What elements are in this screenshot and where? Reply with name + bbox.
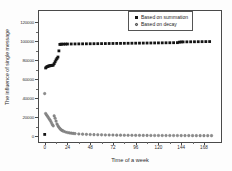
data-point <box>66 43 69 46</box>
x-tick-minor-mark <box>102 142 103 144</box>
y-tick-mark <box>35 60 38 61</box>
data-point <box>108 42 111 45</box>
y-axis-title-text: The influence of single message <box>4 29 10 105</box>
x-tick-mark <box>136 142 137 145</box>
y-axis-title: The influence of single message <box>2 0 12 133</box>
x-tick-label: 72 <box>103 145 123 151</box>
data-point <box>210 134 213 137</box>
data-point <box>153 134 156 137</box>
x-tick-mark <box>113 142 114 145</box>
y-tick-mark <box>35 136 38 137</box>
data-point <box>104 42 107 45</box>
y-tick-mark <box>35 79 38 80</box>
y-tick-mark <box>35 117 38 118</box>
data-point <box>77 42 80 45</box>
y-tick-mark <box>35 41 38 42</box>
data-point <box>119 42 122 45</box>
data-point <box>96 133 99 136</box>
data-point <box>89 42 92 45</box>
data-point <box>169 134 172 137</box>
data-point <box>185 40 188 43</box>
data-point <box>81 42 84 45</box>
y-tick-label: 0 <box>32 134 34 139</box>
data-point <box>70 43 73 46</box>
data-point <box>100 134 103 137</box>
y-tick-label: 60000 <box>23 77 34 82</box>
data-point <box>161 41 164 44</box>
legend-square-marker-icon <box>132 16 141 19</box>
x-tick-label: 120 <box>148 145 168 151</box>
data-point <box>203 134 206 137</box>
y-tick-label: 120000 <box>20 20 34 25</box>
data-point <box>172 41 175 44</box>
data-point <box>85 42 88 45</box>
y-tick-minor-mark <box>36 89 38 90</box>
legend-label-decay: Based on decay <box>141 21 177 28</box>
data-point <box>208 40 211 43</box>
x-tick-label: 144 <box>171 145 191 151</box>
data-point <box>112 134 115 137</box>
x-tick-mark <box>181 142 182 145</box>
y-tick-minor-mark <box>36 51 38 52</box>
data-point <box>165 41 168 44</box>
data-point <box>149 42 152 45</box>
data-point <box>138 134 141 137</box>
y-tick-mark <box>35 98 38 99</box>
data-point <box>104 134 107 137</box>
data-point <box>161 134 164 137</box>
x-tick-mark <box>90 142 91 145</box>
y-tick-minor-mark <box>36 70 38 71</box>
data-point <box>195 134 198 137</box>
data-point <box>142 134 145 137</box>
legend-item-summation: Based on summation <box>132 14 188 21</box>
data-point <box>58 49 61 52</box>
data-point <box>134 134 137 137</box>
x-tick-mark <box>45 142 46 145</box>
data-point <box>127 134 130 137</box>
data-point <box>180 134 183 137</box>
x-tick-label: 0 <box>35 145 55 151</box>
data-point <box>54 117 57 120</box>
y-tick-label: 40000 <box>23 96 34 101</box>
y-tick-minor-mark <box>36 108 38 109</box>
data-point <box>131 134 134 137</box>
data-point <box>85 133 88 136</box>
series-decay <box>43 92 212 137</box>
x-tick-minor-mark <box>193 142 194 144</box>
x-tick-label: 24 <box>57 145 77 151</box>
data-point <box>134 42 137 45</box>
data-point <box>157 134 160 137</box>
data-point <box>172 134 175 137</box>
x-tick-minor-mark <box>56 142 57 144</box>
data-point <box>127 42 130 45</box>
data-point <box>123 42 126 45</box>
data-point <box>206 134 209 137</box>
data-point <box>189 40 192 43</box>
data-point <box>197 40 200 43</box>
x-tick-label: 168 <box>194 145 214 151</box>
x-tick-label: 96 <box>126 145 146 151</box>
data-point <box>115 134 118 137</box>
data-point <box>187 134 190 137</box>
x-tick-mark <box>204 142 205 145</box>
y-tick-minor-mark <box>36 32 38 33</box>
data-point <box>96 42 99 45</box>
data-point <box>142 42 145 45</box>
data-point <box>119 134 122 137</box>
y-tick-label: 100000 <box>20 39 34 44</box>
y-tick-label: 80000 <box>23 58 34 63</box>
data-point <box>204 40 207 43</box>
x-tick-minor-mark <box>147 142 148 144</box>
data-point <box>123 134 126 137</box>
data-point <box>165 134 168 137</box>
x-tick-minor-mark <box>124 142 125 144</box>
data-point <box>74 43 77 46</box>
y-tick-label: 20000 <box>23 115 34 120</box>
chart-legend: Based on summation Based on decay <box>128 11 193 31</box>
data-point <box>43 133 46 136</box>
data-point <box>100 42 103 45</box>
data-point <box>89 133 92 136</box>
legend-circle-marker-icon <box>132 23 141 25</box>
data-point <box>182 41 185 44</box>
y-tick-minor-mark <box>36 127 38 128</box>
